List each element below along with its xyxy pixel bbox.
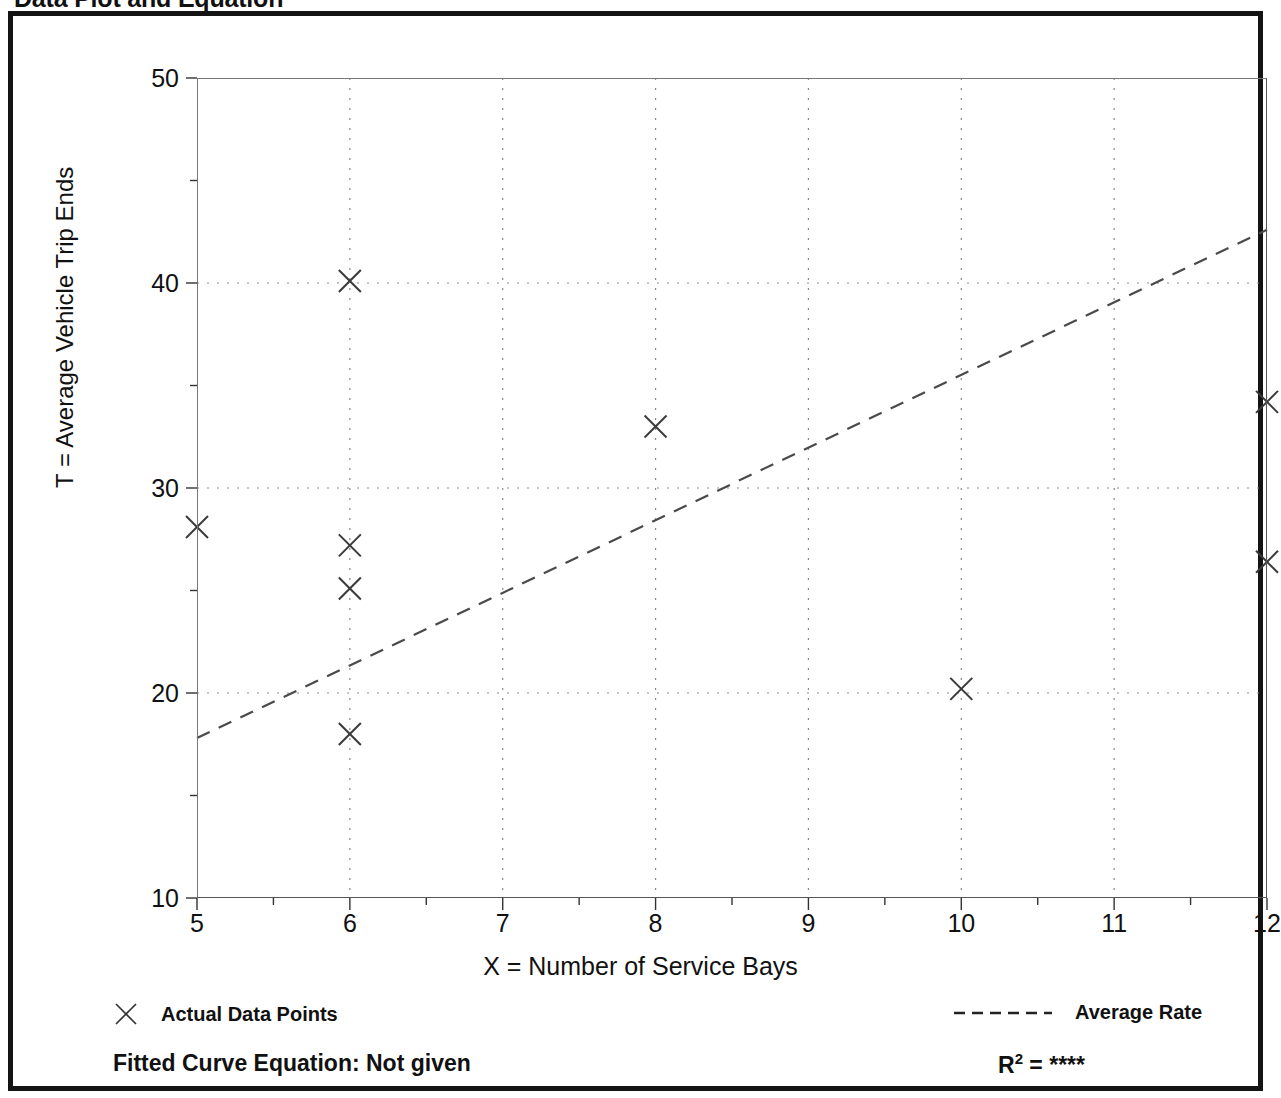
chart-footer: Fitted Curve Equation: Not given R2 = **… [13, 1050, 1268, 1090]
y-axis-title: T = Average Vehicle Trip Ends [51, 167, 79, 488]
r-squared-exponent: 2 [1015, 1050, 1023, 1067]
x-tick-label: 10 [947, 909, 975, 938]
r-squared-stars: **** [1049, 1052, 1085, 1078]
y-axis-tick-labels: 1020304050 [117, 78, 179, 898]
legend-label-actual-data-points: Actual Data Points [161, 1003, 338, 1026]
chart-legend: Actual Data Points Average Rate [13, 1001, 1268, 1035]
y-tick-label: 30 [151, 474, 179, 503]
x-axis-title: X = Number of Service Bays [13, 952, 1268, 981]
x-tick-label: 12 [1253, 909, 1281, 938]
figure-frame: 1020304050 56789101112 T = Average Vehic… [8, 11, 1263, 1091]
x-tick-label: 9 [801, 909, 815, 938]
x-marker-icon [113, 1001, 139, 1027]
x-tick-label: 5 [190, 909, 204, 938]
y-tick-label: 50 [151, 64, 179, 93]
y-tick-label: 10 [151, 884, 179, 913]
x-tick-label: 6 [343, 909, 357, 938]
y-tick-label: 20 [151, 679, 179, 708]
x-tick-label: 8 [649, 909, 663, 938]
x-tick-label: 7 [496, 909, 510, 938]
dashed-line-icon [953, 1007, 1053, 1019]
axis-ticks [197, 78, 1267, 898]
r-squared-symbol: R [998, 1052, 1015, 1078]
legend-label-average-rate: Average Rate [1075, 1001, 1202, 1024]
x-tick-label: 11 [1101, 909, 1127, 938]
legend-item-actual-data-points: Actual Data Points [113, 1001, 338, 1027]
x-axis-tick-labels: 56789101112 [197, 909, 1267, 941]
r-squared-value: R2 = **** [998, 1050, 1085, 1079]
fitted-curve-equation: Fitted Curve Equation: Not given [113, 1050, 471, 1077]
legend-item-average-rate: Average Rate [953, 1001, 1202, 1024]
y-tick-label: 40 [151, 269, 179, 298]
plot-area [197, 78, 1267, 898]
r-squared-equals: = [1023, 1052, 1049, 1078]
